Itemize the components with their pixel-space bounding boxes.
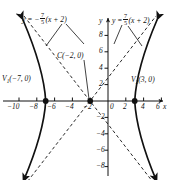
- x-axis-label: x: [163, 103, 166, 111]
- eq-left-minus: −: [34, 15, 39, 24]
- xtick-6: 6: [156, 103, 160, 110]
- callout-leaders: [46, 24, 142, 99]
- eq-right-denominator: 5: [123, 19, 128, 26]
- ytick-minus-4: −4: [96, 130, 105, 137]
- ytick-minus-6: −6: [96, 146, 105, 153]
- eq-left-equals: =: [27, 15, 32, 24]
- v1-coords: (−7, 0): [9, 74, 31, 83]
- ytick-8: 8: [99, 31, 103, 38]
- vertex-right-label: V2(3, 0): [131, 76, 155, 85]
- right-branch: [135, 20, 157, 180]
- eq-left-tail: (x + 2): [46, 15, 67, 24]
- xtick-minus-6: −6: [47, 103, 56, 110]
- leader-left-equation-b: [66, 24, 84, 44]
- graph-canvas: [0, 0, 171, 180]
- vertex-right-dot: [132, 98, 138, 104]
- right-asymptote-equation: y =75(x + 2): [112, 13, 150, 27]
- ytick-2: 2: [99, 80, 103, 87]
- xtick-minus-4: −4: [65, 103, 74, 110]
- leader-left-equation-a: [46, 24, 62, 46]
- leader-right-equation-a: [114, 25, 122, 44]
- ytick-minus-8: −8: [96, 162, 105, 169]
- ytick-6: 6: [99, 47, 103, 54]
- y-axis-label: y: [99, 17, 102, 25]
- ytick-4: 4: [99, 64, 103, 71]
- eq-left-y: y: [22, 15, 25, 24]
- eq-right-equals: =: [117, 16, 122, 25]
- xtick-4: 4: [141, 103, 145, 110]
- leader-center: [84, 60, 89, 99]
- xtick-minus-8: −8: [29, 103, 38, 110]
- eq-right-y: y: [112, 16, 115, 25]
- v2-coords: (3, 0): [138, 75, 154, 84]
- ytick-minus-2: −2: [96, 113, 105, 120]
- eq-right-fraction: 75: [123, 13, 128, 27]
- xtick-minus-2: −2: [83, 103, 92, 110]
- xtick-2: 2: [123, 103, 127, 110]
- eq-left-denominator: 5: [40, 18, 45, 25]
- eq-right-tail: (x + 2): [129, 16, 150, 25]
- xtick-minus-10: −10: [7, 103, 19, 110]
- center-point-label: C(−2, 0): [57, 52, 84, 60]
- vertex-left-label: V1(−7, 0): [2, 75, 31, 84]
- eq-left-fraction: 75: [40, 12, 45, 26]
- xtick-zero: 0: [110, 103, 114, 110]
- left-branch: [23, 20, 46, 180]
- left-asymptote-equation: y = −75(x + 2): [22, 12, 67, 26]
- hyperbola-figure: y = −75(x + 2) y =75(x + 2) C(−2, 0) V1(…: [0, 0, 171, 180]
